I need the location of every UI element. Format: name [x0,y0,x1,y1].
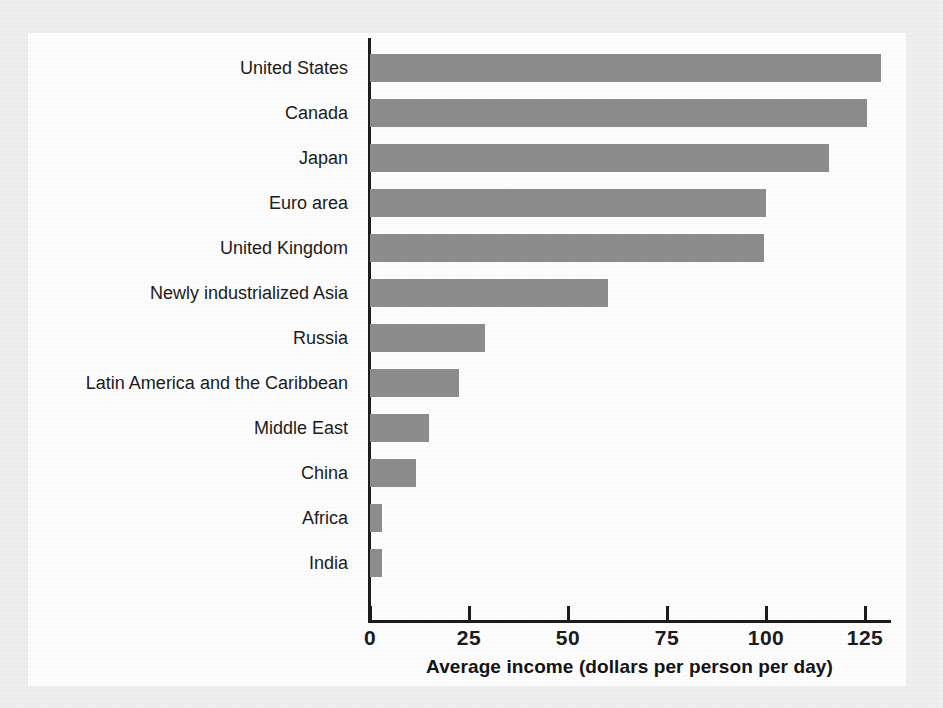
x-tick-label: 125 [830,626,900,650]
bar [370,324,485,352]
bar [370,549,382,577]
category-label: United States [0,54,348,82]
bar [370,54,881,82]
category-label: Euro area [0,189,348,217]
bar [370,189,766,217]
bar [370,504,382,532]
bar [370,459,416,487]
bar [370,414,429,442]
category-label: Russia [0,324,348,352]
category-label: Latin America and the Caribbean [0,369,348,397]
category-label: India [0,549,348,577]
category-label: China [0,459,348,487]
x-tick-label: 100 [731,626,801,650]
category-label: Middle East [0,414,348,442]
category-label: United Kingdom [0,234,348,262]
x-tick-mark [468,606,471,621]
x-tick-mark [666,606,669,621]
bar [370,234,764,262]
x-tick-mark [567,606,570,621]
x-tick-label: 75 [632,626,702,650]
category-label: Canada [0,99,348,127]
category-label: Africa [0,504,348,532]
bar [370,144,829,172]
bar [370,99,867,127]
x-axis-title: Average income (dollars per person per d… [368,656,891,678]
bar [370,369,459,397]
bar [370,279,608,307]
category-label: Japan [0,144,348,172]
x-tick-label: 25 [434,626,504,650]
x-tick-mark [864,606,867,621]
x-tick-mark [369,606,372,621]
x-tick-label: 0 [335,626,405,650]
bar-chart: 0255075100125 United StatesCanadaJapanEu… [0,0,943,708]
category-label: Newly industrialized Asia [0,279,348,307]
x-tick-label: 50 [533,626,603,650]
x-tick-mark [765,606,768,621]
x-axis-line [368,620,891,623]
